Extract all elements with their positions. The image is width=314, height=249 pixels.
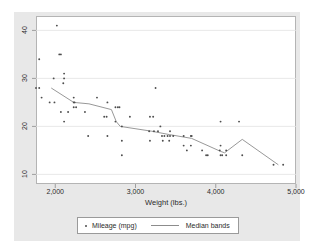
plot-canvas	[0, 0, 314, 249]
scatter-point	[63, 121, 65, 123]
x-axis-title: Weight (lbs.)	[36, 198, 296, 207]
scatter-point	[149, 140, 151, 142]
legend-item-median-bands: Median bands	[151, 218, 230, 233]
scatter-point	[273, 164, 275, 166]
scatter-point	[53, 77, 55, 79]
scatter-point	[201, 149, 203, 151]
scatter-point	[63, 73, 65, 75]
x-tick-label: 5,000	[287, 188, 305, 195]
legend-label-median-bands: Median bands	[186, 222, 230, 229]
scatter-point	[114, 121, 116, 123]
scatter-point	[54, 101, 56, 103]
scatter-point	[84, 111, 86, 113]
legend-dot-icon	[85, 225, 87, 227]
scatter-point	[207, 154, 209, 156]
legend-item-mileage: Mileage (mpg)	[85, 218, 137, 233]
y-tick-label: 10	[21, 170, 28, 178]
scatter-point	[159, 125, 161, 127]
x-tick-label: 2,000	[46, 188, 64, 195]
scatter-point	[220, 145, 222, 147]
scatter-point	[149, 116, 151, 118]
scatter-point	[103, 116, 105, 118]
legend-line-icon	[151, 225, 179, 226]
scatter-point	[225, 154, 227, 156]
scatter-point	[162, 140, 164, 142]
scatter-point	[220, 121, 222, 123]
scatter-point	[169, 135, 171, 137]
scatter-point	[155, 87, 157, 89]
scatter-point	[63, 77, 65, 79]
scatter-point	[73, 106, 75, 108]
scatter-point	[114, 106, 116, 108]
x-tick-label: 4,000	[207, 188, 225, 195]
y-tick-label: 30	[21, 74, 28, 82]
scatter-point	[172, 135, 174, 137]
scatter-point	[163, 135, 165, 137]
top-margin-spacer	[0, 0, 314, 12]
chart-legend: Mileage (mpg) Median bands	[77, 217, 239, 234]
scatter-point	[168, 140, 170, 142]
scatter-point	[183, 145, 185, 147]
scatter-point	[35, 87, 37, 89]
scatter-point	[49, 101, 51, 103]
scatter-point	[152, 116, 154, 118]
scatter-point	[241, 154, 243, 156]
scatter-point	[56, 25, 58, 27]
scatter-point	[157, 130, 159, 132]
scatter-point	[225, 149, 227, 151]
scatter-point	[282, 164, 284, 166]
scatter-point	[75, 106, 77, 108]
scatter-point	[153, 130, 155, 132]
scatter-point	[121, 125, 123, 127]
scatter-point	[106, 101, 108, 103]
scatter-point	[67, 111, 69, 113]
scatter-point	[169, 130, 171, 132]
scatter-point	[106, 135, 108, 137]
scatter-point	[190, 145, 192, 147]
scatter-point	[148, 130, 150, 132]
scatter-point	[74, 101, 76, 103]
scatter-point	[38, 58, 40, 60]
axis-ticks	[32, 30, 296, 188]
scatter-point	[161, 135, 163, 137]
mileage-scatter-points	[35, 25, 284, 166]
scatter-point	[41, 97, 43, 99]
y-tick-label: 20	[21, 122, 28, 130]
scatter-point	[62, 82, 64, 84]
scatter-point	[121, 154, 123, 156]
scatter-point	[38, 87, 40, 89]
scatter-point	[106, 116, 108, 118]
scatter-point	[121, 140, 123, 142]
scatter-point	[186, 149, 188, 151]
scatter-point	[191, 135, 193, 137]
scatter-point	[219, 149, 221, 151]
scatter-point	[87, 135, 89, 137]
scatter-point	[183, 135, 185, 137]
scatter-point	[238, 121, 240, 123]
legend-label-mileage: Mileage (mpg)	[92, 222, 137, 229]
y-tick-label: 40	[21, 26, 28, 34]
scatter-point	[60, 111, 62, 113]
chart-figure: 10203040 2,0003,0004,0005,000 Weight (lb…	[0, 0, 314, 249]
x-tick-label: 3,000	[127, 188, 145, 195]
scatter-point	[167, 135, 169, 137]
scatter-point	[119, 106, 121, 108]
scatter-point	[129, 116, 131, 118]
scatter-point	[220, 154, 222, 156]
scatter-point	[73, 97, 75, 99]
scatter-point	[60, 53, 62, 55]
scatter-point	[96, 97, 98, 99]
